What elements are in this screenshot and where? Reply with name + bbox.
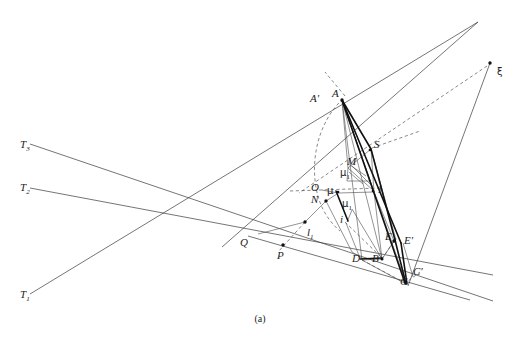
label-mu1-lower: μ1 (342, 199, 352, 212)
label-mu: μ (327, 186, 333, 196)
dashed-l1-to-P (278, 222, 305, 252)
dashed-horizontal-through-O (290, 188, 380, 191)
label-E-prime: E′ (404, 235, 413, 246)
label-O: O (311, 182, 319, 193)
label-T2: T2 (20, 182, 30, 196)
dot-N (324, 199, 327, 202)
label-I: I (378, 184, 382, 195)
seg-mu-to-I (338, 192, 374, 193)
dashed-xi-to-O (299, 66, 487, 193)
label-B: B (372, 253, 379, 264)
line-T1 (30, 22, 478, 294)
label-T3: T3 (20, 139, 30, 153)
label-xi: ξ (497, 67, 503, 77)
line-main-secant (222, 22, 478, 247)
line-T3 (30, 144, 493, 301)
label-C: C (400, 276, 407, 287)
dot-B (381, 258, 384, 261)
label-C-prime: C′ (413, 266, 423, 277)
label-P: P (277, 250, 284, 261)
label-N: N (311, 194, 318, 205)
line-T2 (30, 188, 493, 275)
figure-caption: (a) (0, 313, 520, 324)
dot-I (372, 190, 375, 193)
label-E: E (385, 231, 392, 242)
diagram-canvas (0, 0, 520, 342)
label-M: M (347, 156, 356, 167)
dot-l1 (303, 220, 306, 223)
label-mu1-upper: μ1 (340, 168, 350, 181)
label-A: A (332, 88, 339, 99)
label-A-prime: A′ (310, 93, 319, 104)
label-Q: Q (240, 237, 248, 248)
label-D: D (352, 253, 360, 264)
line-through-Q-C (248, 236, 470, 300)
dot-xi (488, 61, 491, 64)
dot-P (281, 243, 284, 246)
geometry-figure: T3 T2 T1 ξ A′ A S M μ1 O μ N μ1 I i l1 Q (0, 0, 520, 342)
dot-S (369, 149, 372, 152)
dot-A (340, 98, 343, 101)
seg-box-left (349, 172, 363, 184)
dot-E (392, 239, 395, 242)
dot-mu (337, 191, 340, 194)
ray-xi-C (408, 63, 490, 286)
label-S: S (374, 139, 380, 150)
label-T1: T1 (20, 289, 30, 303)
label-i: i (340, 214, 343, 225)
label-l1: l1 (307, 227, 314, 241)
